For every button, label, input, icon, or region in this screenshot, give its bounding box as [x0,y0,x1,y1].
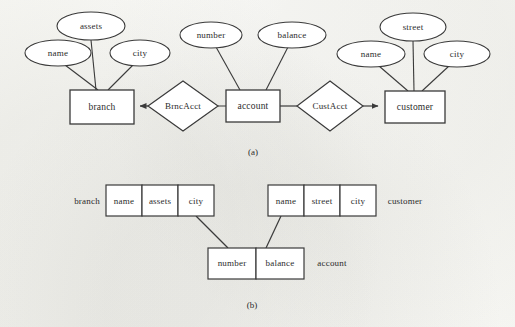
label-customer-attr-street: street [312,196,333,206]
connector-customer-city [422,66,449,91]
link-account-number-to-branch-city [196,216,228,248]
caption-b: (b) [247,300,258,310]
label-branch-attr-assets: assets [149,196,171,206]
connector-account-balance [266,47,288,90]
er-diagram-figure: assets name city number balance street n… [0,0,515,327]
label-account-number: number [197,30,226,40]
label-branch-assets: assets [80,21,102,31]
label-relationship-brncacct: BrncAcct [165,101,201,111]
connector-customer-name [379,66,408,91]
label-customer-name: name [361,49,381,59]
connector-account-number [216,47,240,90]
connector-branch-name [65,65,98,90]
label-branch-attr-city: city [189,196,203,206]
label-relation-account: account [317,258,346,268]
label-account-balance: balance [278,30,307,40]
label-branch-name: name [48,48,68,58]
caption-a: (a) [248,147,258,157]
label-account-attr-balance: balance [266,258,295,268]
label-branch-attr-name: name [114,196,134,206]
label-entity-account: account [238,101,269,111]
connector-branch-city [108,65,133,90]
label-account-attr-number: number [218,258,247,268]
diagram-vector-layer [0,0,515,327]
label-relation-branch: branch [74,196,100,206]
label-entity-branch: branch [88,102,115,112]
label-relation-customer: customer [388,196,423,206]
label-entity-customer: customer [397,102,433,112]
label-relationship-custacct: CustAcct [312,101,347,111]
label-branch-city: city [133,48,147,58]
label-customer-attr-city: city [351,196,365,206]
label-customer-city: city [450,49,464,59]
connector-customer-street [413,41,414,91]
label-customer-attr-name: name [276,196,296,206]
schema-link-lines [196,216,281,248]
attribute-connectors-account [216,47,288,90]
label-customer-street: street [403,22,424,32]
connector-branch-assets [91,40,96,90]
link-account-balance-to-customer-name [266,216,281,248]
